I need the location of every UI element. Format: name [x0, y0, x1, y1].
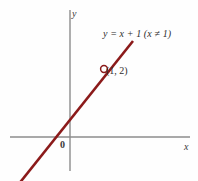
x-axis-label: x	[184, 142, 188, 152]
origin-label: 0	[60, 140, 65, 150]
graph-figure: y x 0 y = x + 1 (x ≠ 1) (1, 2)	[0, 0, 198, 181]
line-y-equals-x-plus-1	[18, 41, 133, 181]
y-axis-label: y	[72, 9, 76, 19]
point-coordinate-label: (1, 2)	[106, 66, 128, 76]
equation-annotation: y = x + 1 (x ≠ 1)	[103, 29, 171, 39]
